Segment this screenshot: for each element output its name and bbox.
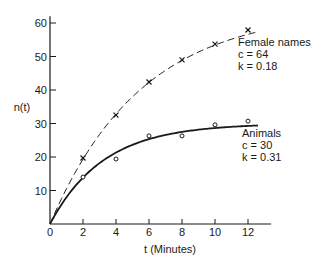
x-axis-label: t (Minutes) xyxy=(144,243,196,255)
x-tick-label: 10 xyxy=(209,226,221,238)
data-point-x xyxy=(246,28,251,33)
annotation-female-title: Female names xyxy=(238,36,311,48)
x-tick-label: 6 xyxy=(146,226,152,238)
data-point-x xyxy=(147,79,152,84)
curve-animals xyxy=(50,126,258,224)
data-point-circle xyxy=(81,175,85,179)
x-tick-label: 12 xyxy=(242,226,254,238)
data-point-circle xyxy=(213,123,217,127)
data-point-circle xyxy=(114,157,118,161)
data-point-x xyxy=(213,42,218,47)
x-tick-label: 2 xyxy=(80,226,86,238)
x-tick-label: 4 xyxy=(113,226,119,238)
markers xyxy=(81,28,251,180)
annotation-animals-k: k = 0.31 xyxy=(242,151,281,163)
annotation-female-c: c = 64 xyxy=(238,48,268,60)
data-point-x xyxy=(114,113,119,118)
data-point-circle xyxy=(246,119,250,123)
y-tick-label: 20 xyxy=(35,151,47,163)
chart: 024681012102030405060 n(t) t (Minutes) F… xyxy=(0,0,325,263)
curves xyxy=(50,32,258,224)
annotation-animals-title: Animals xyxy=(242,127,282,139)
annotation-animals-c: c = 30 xyxy=(242,139,272,151)
x-tick-label: 0 xyxy=(47,226,53,238)
annotation-female-k: k = 0.18 xyxy=(238,60,277,72)
data-point-circle xyxy=(180,134,184,138)
y-tick-label: 50 xyxy=(35,51,47,63)
x-tick-label: 8 xyxy=(179,226,185,238)
data-point-circle xyxy=(147,134,151,138)
y-tick-label: 60 xyxy=(35,17,47,29)
data-point-x xyxy=(180,57,185,62)
y-tick-label: 40 xyxy=(35,84,47,96)
annotation-animals: Animals c = 30 k = 0.31 xyxy=(242,127,282,163)
annotation-female-names: Female names c = 64 k = 0.18 xyxy=(238,36,311,72)
labels: n(t) t (Minutes) Female names c = 64 k =… xyxy=(14,36,312,255)
y-tick-label: 10 xyxy=(35,185,47,197)
y-axis-label: n(t) xyxy=(14,101,31,113)
y-tick-label: 30 xyxy=(35,118,47,130)
